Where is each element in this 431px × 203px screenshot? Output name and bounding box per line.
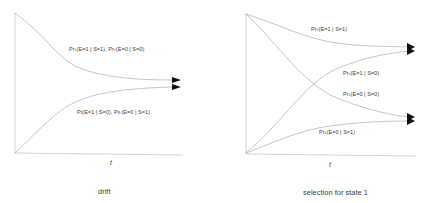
curve-label-e1-s1: Prₜ(E=1 | S=1) bbox=[311, 27, 347, 33]
panel-caption: selection for state 1 bbox=[303, 189, 368, 197]
curve-increasing bbox=[15, 87, 172, 153]
panel-caption: drift bbox=[98, 188, 111, 196]
curve-e0-s1 bbox=[246, 121, 408, 153]
drift-panel bbox=[15, 13, 183, 155]
x-axis-label: t bbox=[329, 161, 331, 168]
arrowhead-icon bbox=[172, 84, 181, 90]
x-axis bbox=[246, 154, 416, 156]
curve-label-increasing: Pt(E=1 | S=0), Prₜ(E=0 | S=1) bbox=[77, 110, 150, 116]
curve-label-e0-s0: Prₜ(E=0 | S=0) bbox=[343, 92, 379, 98]
curve-label-e1-s0: Prₜ(E=1 | S=0) bbox=[343, 71, 379, 77]
x-axis-label: t bbox=[110, 159, 112, 166]
arrowhead-icon bbox=[172, 77, 181, 83]
curve-label-decreasing: Prₜ(E=1 | S=1), Prₜ(E=0 | S=0) bbox=[69, 47, 144, 53]
curve-e1-s0 bbox=[246, 51, 408, 153]
curve-label-e0-s1: Prₜ(E=0 | S=1) bbox=[319, 130, 355, 136]
x-axis bbox=[15, 153, 183, 155]
diagram-canvas bbox=[0, 0, 431, 203]
